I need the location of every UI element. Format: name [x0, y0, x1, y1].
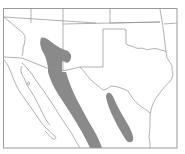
ks-ok-border	[110, 22, 160, 23]
ks-mo-border	[164, 23, 177, 24]
colorado-nm-border	[31, 8, 160, 24]
nevada-arizona-border	[4, 17, 23, 33]
tx-la-border	[166, 52, 173, 80]
range-area-east	[106, 93, 133, 142]
map-canvas	[0, 0, 185, 154]
range-map	[0, 0, 185, 154]
texas-coastline	[149, 80, 171, 148]
nm-tx-border	[80, 29, 125, 67]
ok-ar-border	[160, 9, 166, 52]
red-river	[126, 30, 166, 52]
az-ca-border	[22, 33, 25, 56]
utah-arizona-border	[4, 17, 96, 23]
tiburon-island	[28, 82, 30, 85]
baja-east-coast	[21, 66, 50, 125]
